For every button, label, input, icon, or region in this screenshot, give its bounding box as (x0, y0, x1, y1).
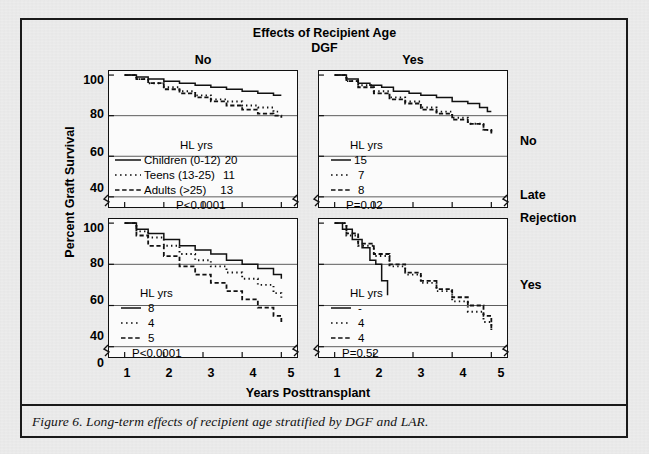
y-tick-bottom-40: 40 (66, 330, 104, 331)
legend-hl-value: 4 (354, 332, 364, 344)
y-tick-label: 100 (70, 222, 104, 235)
y-tick-label: 100 (70, 74, 104, 87)
y-tick-label: 80 (70, 257, 104, 270)
y-tick-bottom-80: 80 (66, 257, 104, 258)
line-style-dashed-icon (114, 184, 144, 196)
legend-row: 7 (330, 167, 383, 182)
x-tick-left-2: 2 (159, 366, 179, 380)
line-style-solid-icon (330, 154, 354, 166)
legend-row: 8 (120, 300, 182, 315)
legend-row: - (330, 300, 383, 315)
line-style-dotted-icon (114, 169, 144, 181)
legend-bottom-left: HL yrs 8 4 5 P<0.0001 (120, 285, 182, 360)
line-style-solid-icon (114, 154, 144, 166)
y-tick-bottom-60: 60 (66, 294, 104, 295)
legend-hl-header: HL yrs (330, 137, 383, 152)
x-tick-left-3: 3 (201, 366, 221, 380)
legend-p-value: P=0.02 (330, 197, 383, 212)
legend-hl-value: 4 (144, 317, 154, 329)
y-tick-label: 80 (70, 108, 104, 121)
legend-hl-header: HL yrs (114, 137, 234, 152)
y-tick-label: 60 (70, 146, 104, 159)
legend-hl-header: HL yrs (330, 285, 383, 300)
legend-p-value: P<0.0001 (120, 345, 182, 360)
x-tick-right-5: 5 (491, 366, 511, 380)
y-tick-label: 60 (70, 294, 104, 307)
row-label-no: No (520, 134, 537, 148)
column-header-no: No (108, 53, 298, 67)
row-label-rejection: Rejection (520, 211, 576, 225)
legend-row: 4 (120, 315, 182, 330)
legend-row: Children (0-12) 20 (114, 152, 234, 167)
row-label-yes: Yes (520, 278, 542, 292)
y-tick-label: 40 (70, 182, 104, 195)
line-style-solid-icon (330, 302, 354, 314)
y-tick-bottom-0: 0 (66, 357, 104, 358)
y-tick-bottom-100: 100 (66, 222, 104, 223)
legend-label: Adults (>25) (144, 184, 206, 196)
legend-hl-value: 5 (144, 332, 154, 344)
x-tick-left-1: 1 (117, 366, 137, 380)
legend-hl-value: 4 (354, 317, 364, 329)
x-tick-right-3: 3 (411, 366, 431, 380)
legend-row: Adults (>25) 13 (114, 182, 234, 197)
legend-hl-value: 7 (354, 169, 364, 181)
figure-root: Effects of Recipient Age DGF No Yes Perc… (0, 0, 649, 454)
legend-row: 4 (330, 330, 383, 345)
legend-top-right: HL yrs 15 7 8 P=0.02 (330, 137, 383, 212)
legend-row: 5 (120, 330, 182, 345)
legend-p-value: P=0.52 (330, 345, 383, 360)
legend-row: 15 (330, 152, 383, 167)
legend-hl-header: HL yrs (120, 285, 182, 300)
line-style-dotted-icon (330, 169, 354, 181)
y-tick-top-100: 100 (66, 74, 104, 75)
column-header-yes: Yes (318, 53, 508, 67)
x-tick-right-1: 1 (327, 366, 347, 380)
y-tick-label: 40 (70, 330, 104, 343)
x-axis-title: Years Posttransplant (108, 386, 508, 400)
legend-hl-value: 8 (144, 302, 154, 314)
line-style-dotted-icon (120, 317, 144, 329)
legend-p-value: P<0.0001 (114, 197, 234, 212)
legend-bottom-right: HL yrs - 4 4 P=0.52 (330, 285, 383, 360)
line-style-solid-icon (120, 302, 144, 314)
y-tick-label: 0 (70, 357, 104, 370)
line-style-dotted-icon (330, 317, 354, 329)
legend-hl-value: 15 (354, 154, 367, 166)
x-tick-left-5: 5 (281, 366, 301, 380)
line-style-dashed-icon (330, 332, 354, 344)
figure-caption-box: Figure 6. Long-term effects of recipient… (20, 404, 628, 438)
legend-top-left: HL yrs Children (0-12) 20 Teens (13-25) … (114, 137, 234, 212)
x-tick-left-4: 4 (243, 366, 263, 380)
legend-row: 8 (330, 182, 383, 197)
page-title: Effects of Recipient Age (0, 26, 649, 40)
legend-label: Children (0-12) (144, 154, 221, 166)
legend-hl-value: 8 (354, 184, 364, 196)
legend-hl-value: 11 (223, 169, 235, 181)
legend-hl-value: 20 (225, 154, 238, 166)
legend-hl-value: 13 (220, 184, 233, 196)
line-style-dashed-icon (330, 184, 354, 196)
row-label-late: Late (520, 188, 546, 202)
figure-caption: Figure 6. Long-term effects of recipient… (20, 414, 428, 430)
y-tick-top-80: 80 (66, 108, 104, 109)
x-tick-right-2: 2 (369, 366, 389, 380)
y-tick-top-40: 40 (66, 182, 104, 183)
legend-row: 4 (330, 315, 383, 330)
y-tick-top-60: 60 (66, 146, 104, 147)
legend-label: Teens (13-25) (144, 169, 215, 181)
line-style-dashed-icon (120, 332, 144, 344)
x-tick-right-4: 4 (453, 366, 473, 380)
legend-row: Teens (13-25) 11 (114, 167, 234, 182)
legend-hl-value: - (354, 302, 362, 314)
